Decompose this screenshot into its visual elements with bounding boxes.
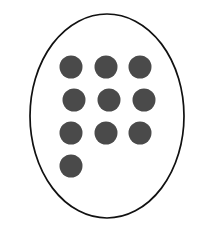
dot	[95, 56, 118, 79]
dot	[129, 122, 152, 145]
figure-canvas	[0, 0, 206, 230]
dot	[60, 56, 83, 79]
dot	[60, 155, 83, 178]
oval-outline	[30, 14, 184, 218]
dot	[60, 122, 83, 145]
dot-count-figure	[0, 0, 206, 230]
dot	[133, 89, 156, 112]
dot	[63, 89, 86, 112]
dot	[129, 56, 152, 79]
dot	[98, 89, 121, 112]
dot	[95, 122, 118, 145]
